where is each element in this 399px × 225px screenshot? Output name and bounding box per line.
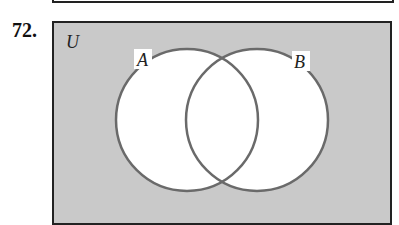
set-b-label: B (294, 52, 305, 72)
venn-diagram: U A B (0, 0, 399, 225)
set-a-label: A (136, 50, 149, 70)
universe-label: U (66, 32, 80, 52)
